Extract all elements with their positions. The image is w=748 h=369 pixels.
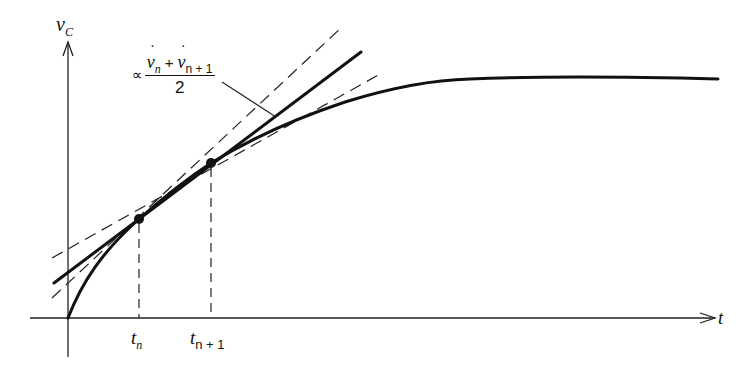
proportional-symbol: ∝ xyxy=(132,66,143,84)
point-tn xyxy=(134,214,144,224)
tick-tn-sub: n xyxy=(136,338,142,352)
plus-operator: + xyxy=(165,54,174,71)
slope-annotation: ∝ vn+vn + 1 2 xyxy=(132,52,215,98)
tick-label-tn: tn xyxy=(131,328,142,347)
tangent-at-tn1 xyxy=(52,74,380,258)
tick-tn1-sub: n + 1 xyxy=(195,337,224,352)
vdot-n1-sub: n + 1 xyxy=(185,62,212,76)
diagram-canvas xyxy=(0,0,748,369)
vdot-n: v xyxy=(147,52,155,73)
fraction: vn+vn + 1 2 xyxy=(145,52,215,98)
y-axis-label-sub: C xyxy=(65,25,73,39)
fraction-denominator: 2 xyxy=(175,76,184,98)
vdot-n-sub: n xyxy=(155,62,161,76)
charging-curve xyxy=(68,77,718,318)
point-tn1 xyxy=(206,158,216,168)
annotation-leader xyxy=(222,82,276,117)
y-axis-label-main: v xyxy=(56,13,65,35)
tick-label-tn1: tn + 1 xyxy=(190,328,225,347)
x-axis-label: t xyxy=(718,308,723,327)
y-axis-label: vC xyxy=(56,14,73,34)
fraction-numerator: vn+vn + 1 xyxy=(145,52,215,76)
